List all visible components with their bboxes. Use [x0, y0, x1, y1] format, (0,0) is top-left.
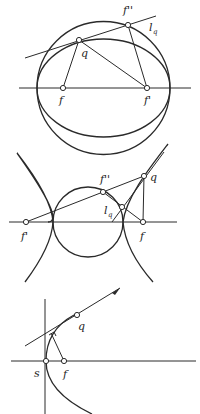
ellipse-figure: f'' l q q f f' [19, 4, 191, 155]
segment-q-fprime [79, 40, 147, 88]
parabola-figure: q s f [11, 288, 196, 414]
point-q [76, 37, 81, 42]
segment-q-f [143, 176, 144, 222]
point-s [43, 358, 48, 363]
segment-fdoubleprime-fprime [128, 25, 147, 88]
point-f [60, 85, 65, 90]
point-f-double-prime [125, 22, 130, 27]
hyperbola-right-branch [123, 144, 168, 282]
label-f-double-prime: f'' [122, 4, 133, 17]
label-q: q [150, 171, 157, 184]
label-f-prime: f' [143, 94, 151, 107]
label-f: f [139, 230, 146, 243]
hyperbola-figure: f'' q l q f' f [9, 144, 177, 282]
label-f-double-prime: f'' [99, 173, 110, 186]
tangent-arrow-icon [112, 288, 120, 295]
tangent-line-lq [112, 152, 164, 222]
hyperbola-left-branch [17, 153, 53, 282]
label-f: f [58, 94, 65, 107]
conic-sections-diagram: f'' l q q f f' f'' q l q f' f [0, 0, 200, 414]
segment-fprime-q [26, 176, 144, 222]
point-f-prime [23, 219, 28, 224]
label-l-subscript: q [108, 211, 113, 219]
tangent-line [25, 288, 120, 346]
label-f-prime: f' [20, 230, 28, 243]
point-q [74, 312, 79, 317]
point-f [61, 358, 66, 363]
parabola-curve [46, 315, 92, 414]
label-l-subscript: q [153, 28, 158, 36]
point-f-double-prime [100, 189, 105, 194]
label-q: q [78, 320, 85, 333]
point-f [140, 219, 145, 224]
point-f-prime [144, 85, 149, 90]
point-foot [119, 204, 124, 209]
label-s: s [34, 367, 40, 380]
perpendicular-f-to-tangent [51, 333, 64, 361]
label-f: f [62, 368, 69, 381]
label-q: q [81, 47, 88, 60]
point-q [141, 173, 146, 178]
